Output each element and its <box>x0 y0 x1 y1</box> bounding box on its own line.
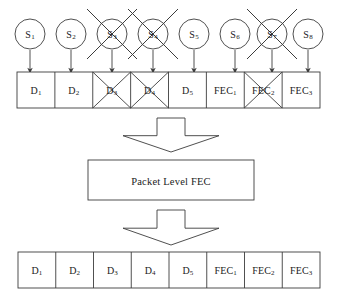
source-node-label-s7: S7 <box>267 28 276 41</box>
received-packet-cell-label-fec1: FEC1 <box>214 84 236 97</box>
source-node-label-s1: S1 <box>25 28 34 41</box>
source-node-label-s3: S3 <box>107 28 116 41</box>
source-node-label-s5: S5 <box>189 28 198 41</box>
received-packet-cell-label-d3: D3 <box>106 84 117 97</box>
down-block-arrow-to-decoder <box>123 118 219 152</box>
recovered-packet-cell-label-fec2: FEC2 <box>252 264 274 277</box>
recovered-packet-cell-label-d3: D3 <box>107 264 118 277</box>
diagram-canvas: S1S2S3S4S5S6S7S8D1D2D3D4D5FEC1FEC2FEC3D1… <box>0 0 342 295</box>
recovered-row-shapes <box>18 252 320 288</box>
received-row-shapes <box>17 72 320 108</box>
received-packet-cell-label-d5: D5 <box>182 84 193 97</box>
recovered-packet-cell-label-fec3: FEC3 <box>290 264 312 277</box>
source-node-label-s4: S4 <box>148 28 157 41</box>
recovered-packet-cell-label-fec1: FEC1 <box>214 264 236 277</box>
received-packet-cell-label-fec3: FEC3 <box>290 84 312 97</box>
recovered-packet-cell-label-d5: D5 <box>182 264 193 277</box>
source-node-label-s6: S6 <box>230 28 239 41</box>
source-node-label-s8: S8 <box>303 28 312 41</box>
received-packet-cell-label-d4: D4 <box>144 84 155 97</box>
source-to-packet-arrows <box>30 50 308 71</box>
received-packet-cell-label-fec2: FEC2 <box>252 84 274 97</box>
source-node-label-s2: S2 <box>66 28 75 41</box>
down-block-arrow-to-recovered <box>123 210 219 245</box>
packet-level-fec-label: Packet Level FEC <box>131 175 211 186</box>
diagram-vector-layer <box>0 0 342 295</box>
received-packet-cell-label-d2: D2 <box>68 84 79 97</box>
recovered-packet-cell-label-d2: D2 <box>69 264 80 277</box>
recovered-packet-cell-label-d4: D4 <box>145 264 156 277</box>
source-node-circles <box>15 19 323 49</box>
recovered-packet-cell-label-d1: D1 <box>31 264 42 277</box>
received-packet-cell-label-d1: D1 <box>30 84 41 97</box>
